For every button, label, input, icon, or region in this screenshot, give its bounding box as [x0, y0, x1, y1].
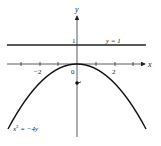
x-axis-label: x	[147, 60, 152, 69]
tick-label-y1: 1	[72, 37, 76, 45]
y-axis-label: y	[74, 5, 79, 14]
parabola-label: x2 = −4y	[12, 124, 39, 133]
directrix-label: y = 1	[105, 37, 121, 45]
parabola-chart: y x −2 0 2 1 y = 1 x2 = −4y	[0, 0, 161, 146]
tick-label-neg2: −2	[34, 68, 42, 76]
tick-label-0: 0	[71, 68, 75, 76]
tick-label-2: 2	[112, 68, 116, 76]
